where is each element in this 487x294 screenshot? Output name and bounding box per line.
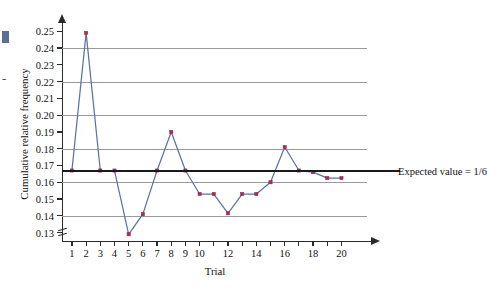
y-axis-tick-label: 0.13 xyxy=(36,227,54,238)
y-axis-tick-label: 0.24 xyxy=(36,43,54,54)
data-point-marker xyxy=(85,31,88,34)
y-axis-tick-label: 0.15 xyxy=(36,194,54,205)
data-point-marker xyxy=(170,130,173,133)
x-axis-tick-label: 12 xyxy=(223,248,234,259)
plot-area: 0.130.140.150.160.170.180.190.200.210.22… xyxy=(55,22,375,246)
y-axis-tick-label: 0.16 xyxy=(36,177,54,188)
data-point-marker xyxy=(340,176,343,179)
series-markers xyxy=(70,31,343,236)
data-series-layer xyxy=(55,22,375,246)
x-axis-title: Trial xyxy=(55,265,375,277)
data-point-marker xyxy=(255,192,258,195)
data-point-marker xyxy=(141,213,144,216)
y-axis-tick-label: 0.17 xyxy=(36,160,54,171)
x-axis-tick-label: 9 xyxy=(183,248,188,259)
data-point-marker xyxy=(212,192,215,195)
y-axis-tick-label: 0.19 xyxy=(36,126,54,137)
data-point-marker xyxy=(283,145,286,148)
x-axis-tick-label: 10 xyxy=(194,248,205,259)
y-axis-tick-label: 0.21 xyxy=(36,93,54,104)
x-axis-tick-label: 16 xyxy=(279,248,290,259)
x-axis-tick-label: 8 xyxy=(169,248,174,259)
data-point-marker xyxy=(127,233,130,236)
data-point-marker xyxy=(269,181,272,184)
data-point-marker xyxy=(198,192,201,195)
series-line xyxy=(72,33,342,234)
x-axis-tick-label: 3 xyxy=(98,248,103,259)
x-axis-tick-label: 20 xyxy=(336,248,347,259)
y-axis-tick-label: 0.22 xyxy=(36,76,54,87)
y-axis-tick-label: 0.23 xyxy=(36,59,54,70)
x-axis-tick-label: 14 xyxy=(251,248,262,259)
x-axis-tick-label: 4 xyxy=(112,248,117,259)
y-axis-tick-label: 0.14 xyxy=(36,210,54,221)
x-axis-tick-label: 6 xyxy=(140,248,145,259)
x-axis-tick-label: 7 xyxy=(154,248,159,259)
data-point-marker xyxy=(241,192,244,195)
y-axis-tick-label: 0.18 xyxy=(36,143,54,154)
x-axis-tick-label: 1 xyxy=(69,248,74,259)
y-axis-tick-label: 0.20 xyxy=(36,110,54,121)
x-axis-tick-label: 2 xyxy=(83,248,88,259)
data-point-marker xyxy=(326,176,329,179)
expected-value-label: Expected value = 1/6 xyxy=(398,166,487,177)
margin-bleed-letters: e t e y xyxy=(1,74,12,80)
data-point-marker xyxy=(226,212,229,215)
x-axis-tick-label: 18 xyxy=(308,248,319,259)
y-axis-tick-label: 0.25 xyxy=(36,26,54,37)
x-axis-tick-label: 5 xyxy=(126,248,131,259)
margin-bleed-text: e t e y xyxy=(0,2,12,80)
y-axis-title: Cumulative relative frequency xyxy=(18,22,32,246)
margin-bleed-block xyxy=(2,31,9,43)
expected-value-line xyxy=(62,170,400,172)
